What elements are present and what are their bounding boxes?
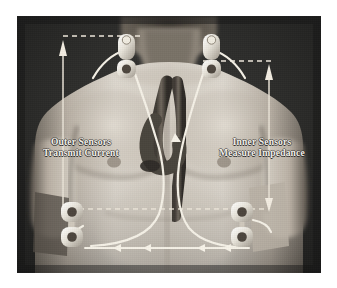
nipple-left [107, 157, 121, 168]
sensor-contact-neck-right [207, 64, 216, 73]
outer-sensor-neck-left[interactable] [117, 34, 136, 78]
sensor-clamp-neck-left [122, 36, 130, 44]
illustration-plate [17, 16, 321, 273]
sensor-clamp-neck-right [207, 36, 215, 44]
figure-root: Outer Sensors Transmit Current Inner Sen… [0, 0, 337, 288]
sensor-contact-waist-left-upper [67, 207, 77, 217]
vessel-opening [140, 160, 160, 172]
sensor-contact-waist-right-lower [237, 232, 247, 242]
torso-illustration [17, 16, 321, 273]
sensor-contact-neck-left [122, 64, 131, 73]
sensor-contact-waist-right-upper [237, 207, 247, 217]
sensor-contact-waist-left-lower [67, 232, 77, 242]
nipple-right [217, 157, 231, 168]
abdomen-highlight [99, 186, 239, 273]
outer-sensor-neck-right[interactable] [202, 34, 221, 78]
